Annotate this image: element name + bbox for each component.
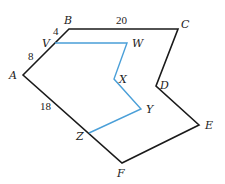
vertex-label-b: B — [63, 14, 72, 27]
vertex-label-f: F — [116, 167, 125, 180]
measure-label-va: 8 — [28, 50, 34, 62]
point-label-x: X — [118, 73, 128, 86]
point-label-y: Y — [146, 103, 155, 116]
vertex-label-e: E — [204, 119, 213, 132]
point-label-v: V — [42, 37, 51, 50]
measure-label-bc: 20 — [116, 14, 128, 26]
measure-label-af: 18 — [40, 100, 52, 112]
geometry-diagram: A B C D E F V W X Y Z 4 8 20 18 — [0, 0, 225, 184]
measure-label-bv: 4 — [53, 25, 59, 37]
point-label-w: W — [132, 37, 145, 50]
point-label-z: Z — [75, 130, 84, 143]
vertex-label-a: A — [8, 69, 17, 82]
vertex-label-c: C — [181, 18, 190, 31]
vertex-label-d: D — [159, 79, 169, 92]
inner-path-vwxyz — [55, 43, 141, 133]
